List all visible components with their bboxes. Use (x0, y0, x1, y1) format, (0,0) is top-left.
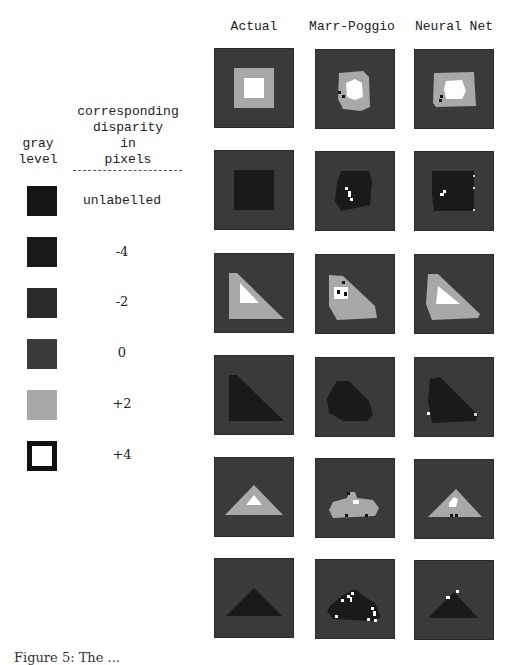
tile-neural-net-row1 (414, 49, 494, 129)
disparity-header-line: in (72, 136, 184, 152)
gray-level-header: gray level (14, 136, 62, 168)
swatch-minus-2 (27, 288, 57, 318)
tile-neural-net-row3 (414, 254, 494, 334)
tile-neural-net-row2 (414, 151, 494, 231)
tile-actual-row1 (214, 48, 294, 128)
figure-caption: Figure 5: The ... (14, 650, 120, 665)
tile-marr-poggio-row6 (315, 559, 395, 639)
tile-actual-row2 (214, 150, 294, 230)
tile-actual-row6 (214, 558, 294, 638)
legend-label-minus-4: -4 (80, 244, 164, 259)
gray-header-line: level (14, 152, 62, 168)
disparity-header-line: corresponding (72, 104, 184, 120)
tile-marr-poggio-row2 (315, 151, 395, 231)
gray-header-line: gray (14, 136, 62, 152)
tile-marr-poggio-row3 (315, 254, 395, 334)
tile-neural-net-row5 (414, 459, 494, 539)
swatch-plus-2 (27, 390, 57, 420)
legend-label-minus-2: -2 (80, 294, 164, 309)
legend-label-plus-2: +2 (80, 396, 164, 411)
legend-label-unlabelled: unlabelled (80, 193, 164, 208)
legend-label-plus-4: +4 (80, 447, 164, 462)
disparity-header-line: disparity (72, 120, 184, 136)
tile-neural-net-row6 (414, 560, 494, 640)
legend-label-zero: 0 (80, 345, 164, 360)
tile-marr-poggio-row1 (315, 49, 395, 129)
column-header-actual: Actual (204, 19, 304, 34)
disparity-header: corresponding disparity in pixels (72, 104, 184, 168)
tile-marr-poggio-row4 (315, 357, 395, 437)
tile-actual-row4 (214, 355, 294, 435)
disparity-header-line: pixels (72, 152, 184, 168)
column-header-neural-net: Neural Net (404, 19, 504, 34)
tile-actual-row5 (214, 457, 294, 537)
swatch-unlabelled (27, 186, 57, 216)
swatch-plus-4 (27, 441, 57, 471)
column-header-marr-poggio: Marr-Poggio (302, 19, 402, 34)
tile-marr-poggio-row5 (315, 458, 395, 538)
legend-divider (73, 170, 182, 171)
tile-neural-net-row4 (414, 357, 494, 437)
swatch-minus-4 (27, 237, 57, 267)
tile-actual-row3 (214, 253, 294, 333)
swatch-zero (27, 339, 57, 369)
